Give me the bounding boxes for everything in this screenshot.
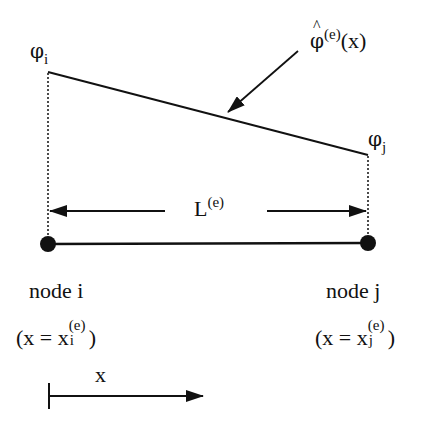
hat-mark: ^ [313,18,321,34]
element-bar [48,243,368,244]
node-i-dot [40,236,56,252]
node-i-value-label: φi [30,40,48,62]
axis-label: x [95,364,106,386]
node-j-name: node j [326,280,380,302]
node-i-name: node i [29,280,83,302]
element-length-label: L(e) [194,198,224,220]
node-j-coordinate: (x = x(e)j ) [315,327,395,349]
node-j-value-label: φj [368,128,386,150]
interpolation-line [48,72,368,155]
node-j-dot [360,235,376,251]
function-label: ^ φ (e)(x) [310,30,366,52]
pointer-arrow [228,51,298,112]
node-i-coordinate: (x = x(e)i ) [16,327,96,349]
